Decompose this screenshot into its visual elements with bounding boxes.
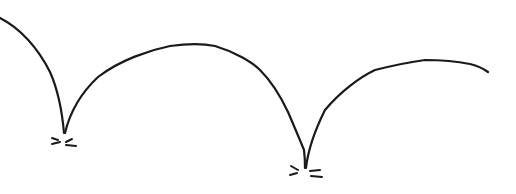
bounce-arc-2 [306,60,488,168]
bouncing-ball-trajectory-drawing [0,0,516,194]
impact-dash [290,173,297,175]
impact-dash [66,145,76,146]
impact-dash [52,142,60,144]
impact-dash [66,139,72,142]
impact-dash [52,138,58,140]
impact-dash [291,166,298,170]
impact-mark-1 [52,138,76,146]
bounce-arc-1 [65,44,305,168]
descent-arc [0,18,64,133]
impact-dash [310,170,320,171]
impact-dash [311,176,322,177]
sketch-canvas [0,0,516,194]
